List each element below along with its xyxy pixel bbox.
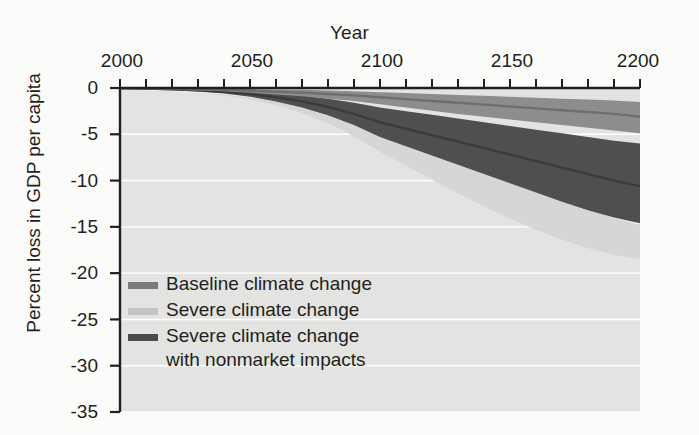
legend-swatch-severe xyxy=(128,308,158,315)
legend-label-baseline: Baseline climate change xyxy=(166,272,372,296)
legend: Baseline climate change Severe climate c… xyxy=(128,272,458,374)
legend-label-severe-nonmarket: Severe climate change with nonmarket imp… xyxy=(166,324,366,372)
legend-swatch-severe-nonmarket xyxy=(128,334,158,341)
legend-swatch-baseline xyxy=(128,282,158,289)
figure: Year Percent loss in GDP per capita 2000… xyxy=(0,0,699,435)
legend-label-severe: Severe climate change xyxy=(166,298,359,322)
legend-item-baseline: Baseline climate change xyxy=(128,272,458,296)
legend-item-severe: Severe climate change xyxy=(128,298,458,322)
legend-item-severe-nonmarket: Severe climate change with nonmarket imp… xyxy=(128,324,458,372)
